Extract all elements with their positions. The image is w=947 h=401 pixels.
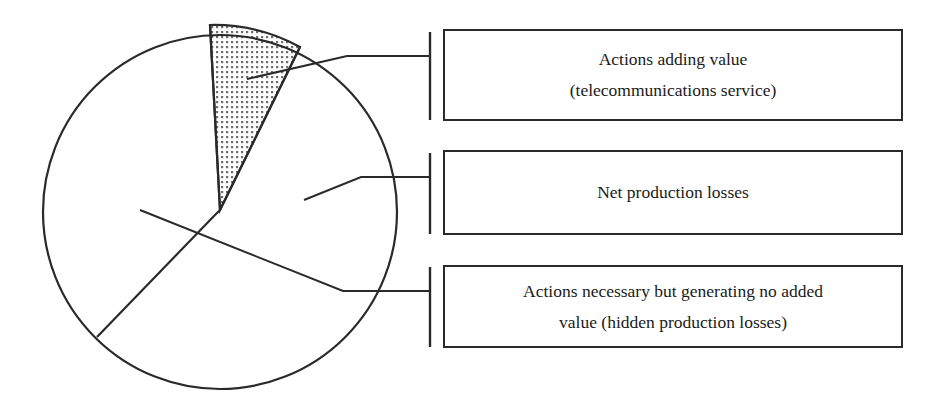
legend-label-value-adding-line2: (telecommunications service) — [570, 75, 777, 106]
legend-label-value-adding-line1: Actions adding value — [570, 44, 777, 75]
slice-divider-lower-left — [97, 210, 220, 337]
legend-box-hidden-losses: Actions necessary but generating no adde… — [443, 265, 903, 348]
legend-label-hidden-losses-line2: value (hidden production losses) — [523, 307, 823, 338]
legend-label-hidden-losses-line1: Actions necessary but generating no adde… — [523, 276, 823, 307]
leader-line-hidden-losses — [140, 210, 430, 291]
legend-label-net-losses: Net production losses — [597, 177, 749, 208]
leader-line-net-losses — [304, 177, 430, 200]
legend-box-value-adding: Actions adding value (telecommunications… — [443, 29, 903, 121]
slice-value-adding — [210, 25, 300, 210]
legend-box-net-losses: Net production losses — [443, 150, 903, 235]
